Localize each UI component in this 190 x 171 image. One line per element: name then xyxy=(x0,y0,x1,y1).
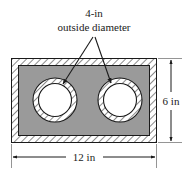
engineering-cross-section-figure: 4-in outside diameter 6 in 12 in xyxy=(0,0,190,171)
left-hole xyxy=(33,78,77,122)
height-dimension: 6 in xyxy=(158,59,182,143)
height-dimension-label: 6 in xyxy=(163,95,180,107)
width-dimension-label: 12 in xyxy=(73,151,96,163)
width-dimension: 12 in xyxy=(12,144,157,168)
figure-canvas: 4-in outside diameter 6 in 12 in xyxy=(0,0,190,171)
callout-label-line2: outside diameter xyxy=(57,21,130,33)
right-hole xyxy=(98,78,142,122)
callout-label-line1: 4-in xyxy=(85,7,103,19)
